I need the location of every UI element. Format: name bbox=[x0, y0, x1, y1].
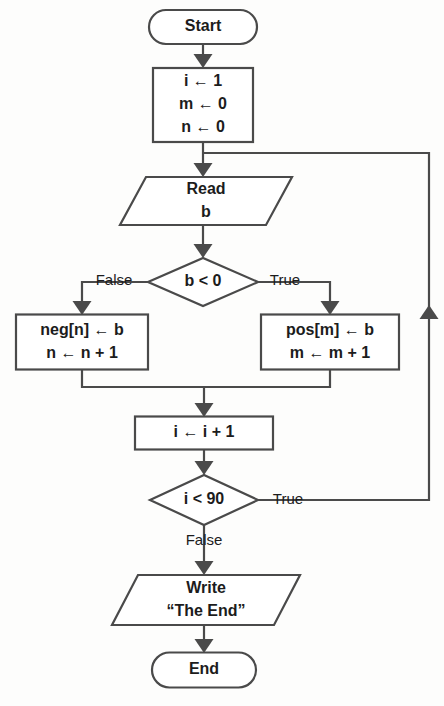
edge-read-to-decision-arrowhead bbox=[194, 244, 213, 258]
decision-i-less-than-90-text-line-0: i < 90 bbox=[184, 490, 225, 507]
write-io-text-line-0: Write bbox=[186, 579, 226, 596]
edge-neg-to-merge bbox=[82, 370, 330, 387]
edge-decision-false-to-write-arrowhead bbox=[195, 561, 214, 575]
flowchart-svg: Starti ← 1m ← 0n ← 0Readbb < 0neg[n] ← b… bbox=[0, 0, 444, 706]
end-terminal[interactable]: End bbox=[152, 653, 256, 688]
edge-increment-to-decision-arrowhead bbox=[195, 461, 214, 475]
init-process-text-line-2: n ← 0 bbox=[181, 118, 225, 135]
init-process-text-line-1: m ← 0 bbox=[179, 95, 227, 112]
edge-init-to-read bbox=[194, 142, 213, 177]
end-terminal-text-line-0: End bbox=[189, 660, 219, 677]
nodes-layer: Starti ← 1m ← 0n ← 0Readbb < 0neg[n] ← b… bbox=[16, 10, 399, 688]
edge-loop-back-to-read-arrowhead bbox=[420, 305, 439, 319]
start-terminal[interactable]: Start bbox=[149, 10, 257, 44]
increment-process-text-line-0: i ← i + 1 bbox=[174, 423, 235, 440]
start-terminal-text-line-0: Start bbox=[185, 17, 222, 34]
edge-label-false-b: False bbox=[96, 271, 133, 288]
read-io-text-line-1: b bbox=[201, 203, 211, 220]
positive-branch-process-text-line-0: pos[m] ← b bbox=[286, 321, 374, 338]
read-io[interactable]: Readb bbox=[120, 177, 292, 225]
negative-branch-process[interactable]: neg[n] ← bn ← n + 1 bbox=[16, 315, 148, 370]
edge-neg-to-merge-line bbox=[82, 370, 330, 387]
write-io[interactable]: Write“The End” bbox=[112, 575, 300, 625]
init-process-text-line-0: i ← 1 bbox=[184, 72, 222, 89]
write-io-text-line-1: “The End” bbox=[166, 602, 245, 619]
edge-start-to-init bbox=[194, 44, 213, 68]
positive-branch-process-text-line-1: m ← m + 1 bbox=[290, 344, 371, 361]
edge-decision-false-to-neg-arrowhead bbox=[73, 301, 92, 315]
edge-increment-to-decision bbox=[195, 450, 214, 475]
edge-write-to-end-arrowhead bbox=[195, 639, 214, 653]
read-io-text-line-0: Read bbox=[186, 180, 225, 197]
edge-label-true-b: True bbox=[270, 271, 300, 288]
edge-decision-true-to-pos-arrowhead bbox=[321, 301, 340, 315]
edge-label-true-i: True bbox=[273, 490, 303, 507]
negative-branch-process-text-line-1: n ← n + 1 bbox=[46, 344, 118, 361]
decision-b-less-than-zero-text-line-0: b < 0 bbox=[185, 272, 222, 289]
edge-merge-to-increment bbox=[195, 387, 214, 417]
edge-read-to-decision bbox=[194, 225, 213, 258]
edge-merge-to-increment-arrowhead bbox=[195, 403, 214, 417]
edge-label-false-i: False bbox=[186, 531, 223, 548]
positive-branch-process[interactable]: pos[m] ← bm ← m + 1 bbox=[261, 315, 399, 370]
edge-start-to-init-arrowhead bbox=[194, 54, 213, 68]
edge-write-to-end bbox=[195, 625, 214, 653]
edge-init-to-read-arrowhead bbox=[194, 163, 213, 177]
decision-i-less-than-90[interactable]: i < 90 bbox=[150, 475, 258, 525]
increment-process[interactable]: i ← i + 1 bbox=[135, 417, 273, 450]
flowchart-canvas: Starti ← 1m ← 0n ← 0Readbb < 0neg[n] ← b… bbox=[0, 0, 444, 706]
decision-b-less-than-zero[interactable]: b < 0 bbox=[148, 258, 258, 306]
negative-branch-process-text-line-0: neg[n] ← b bbox=[40, 321, 124, 338]
init-process[interactable]: i ← 1m ← 0n ← 0 bbox=[153, 68, 253, 142]
